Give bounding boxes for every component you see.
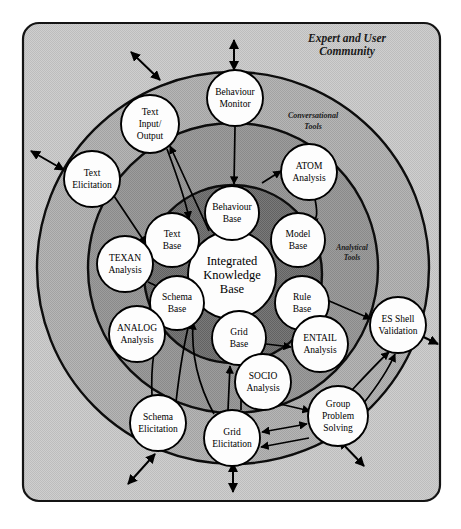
node-analog-analysis[interactable]: ANALOG Analysis [109, 306, 165, 362]
node-label-analog-analysis-l2: Analysis [120, 335, 154, 345]
node-label-model-base-l2: Base [289, 241, 307, 251]
node-socio-analysis[interactable]: SOCIO Analysis [235, 354, 291, 410]
node-label-atom-analysis-l2: Analysis [292, 173, 326, 183]
node-label-entail-analysis-l2: Analysis [303, 345, 337, 355]
node-circle-grid-elicitation[interactable] [204, 410, 260, 466]
node-label-text-input-output-l1: Text [142, 107, 159, 117]
node-label-socio-analysis-l1: SOCIO [249, 371, 278, 381]
node-es-shell-validation[interactable]: ES Shell Validation [370, 297, 426, 353]
node-label-rule-base-l2: Base [293, 304, 311, 314]
node-circle-text-elicitation[interactable] [64, 151, 120, 207]
node-grid-elicitation[interactable]: Grid Elicitation [204, 410, 260, 466]
node-text-input-output[interactable]: Text Input/ Output [121, 95, 179, 153]
node-label-model-base-l1: Model [286, 229, 311, 239]
zone-label-community-line2: Community [319, 45, 375, 58]
node-model-base[interactable]: Model Base [271, 213, 325, 267]
node-circle-schema-elicitation[interactable] [130, 395, 186, 451]
node-label-schema-elicitation-l1: Schema [143, 412, 174, 422]
node-label-behaviour-monitor-l2: Monitor [219, 99, 251, 109]
node-atom-analysis[interactable]: ATOM Analysis [281, 144, 337, 200]
node-label-grid-base-l1: Grid [230, 327, 248, 337]
node-label-texan-analysis-l1: TEXAN [109, 253, 141, 263]
node-label-text-base-l1: Text [164, 229, 181, 239]
node-circle-socio-analysis[interactable] [235, 354, 291, 410]
node-circle-model-base[interactable] [271, 213, 325, 267]
node-text-elicitation[interactable]: Text Elicitation [64, 151, 120, 207]
zone-label-conversational-line1: Conversational [288, 111, 339, 120]
node-label-entail-analysis-l1: ENTAIL [303, 333, 337, 343]
node-label-grid-elicitation-l2: Elicitation [212, 439, 252, 449]
node-label-group-problem-solving-l3: Solving [323, 423, 353, 433]
node-entail-analysis[interactable]: ENTAIL Analysis [292, 316, 348, 372]
node-group-problem-solving[interactable]: Group Problem Solving [308, 386, 368, 446]
node-behaviour-monitor[interactable]: Behaviour Monitor [207, 70, 263, 126]
node-behaviour-base[interactable]: Behaviour Base [205, 186, 259, 240]
node-label-text-input-output-l3: Output [137, 131, 164, 141]
node-circle-es-shell-validation[interactable] [370, 297, 426, 353]
node-label-text-input-output-l2: Input/ [139, 119, 162, 129]
node-circle-behaviour-monitor[interactable] [207, 70, 263, 126]
zone-label-conversational-line2: Tools [304, 122, 322, 131]
knowledge-engineering-diagram: Expert and User Community Conversational… [0, 0, 461, 529]
zone-label-analytical-line1: Analytical [335, 243, 369, 252]
node-texan-analysis[interactable]: TEXAN Analysis [97, 236, 153, 292]
node-schema-elicitation[interactable]: Schema Elicitation [130, 395, 186, 451]
node-label-group-problem-solving-l2: Problem [322, 411, 355, 421]
node-label-behaviour-monitor-l1: Behaviour [215, 87, 255, 97]
diagram-canvas: Expert and User Community Conversational… [0, 0, 461, 529]
node-label-text-base-l2: Base [163, 241, 181, 251]
node-label-schema-base-l1: Schema [162, 292, 193, 302]
zone-label-expert-and-user-community: Expert and User Community [307, 32, 386, 58]
node-label-behaviour-base-l2: Base [223, 214, 241, 224]
node-circle-analog-analysis[interactable] [109, 306, 165, 362]
node-label-integrated-knowledge-base-l3: Base [220, 282, 245, 296]
node-label-text-elicitation-l2: Elicitation [72, 180, 112, 190]
zone-label-community-line1: Expert and User [307, 32, 386, 45]
node-label-integrated-knowledge-base-l2: Knowledge [203, 268, 261, 282]
node-label-grid-elicitation-l1: Grid [223, 427, 241, 437]
node-circle-atom-analysis[interactable] [281, 144, 337, 200]
node-label-es-shell-validation-l2: Validation [378, 326, 417, 336]
edge-behaviour-monitor-to-behaviour-base [234, 127, 235, 184]
node-label-schema-elicitation-l2: Elicitation [138, 424, 178, 434]
node-label-group-problem-solving-l1: Group [326, 399, 351, 409]
node-label-grid-base-l2: Base [230, 339, 248, 349]
node-label-atom-analysis-l1: ATOM [296, 161, 323, 171]
node-label-es-shell-validation-l1: ES Shell [382, 314, 415, 324]
node-circle-entail-analysis[interactable] [292, 316, 348, 372]
node-label-text-elicitation-l1: Text [84, 168, 101, 178]
node-label-integrated-knowledge-base-l1: Integrated [207, 254, 258, 268]
node-label-socio-analysis-l2: Analysis [246, 383, 280, 393]
node-label-rule-base-l1: Rule [293, 292, 311, 302]
zone-label-analytical-line2: Tools [344, 253, 360, 262]
node-circle-behaviour-base[interactable] [205, 186, 259, 240]
node-label-behaviour-base-l1: Behaviour [212, 202, 252, 212]
node-label-texan-analysis-l2: Analysis [108, 265, 142, 275]
node-circle-texan-analysis[interactable] [97, 236, 153, 292]
node-label-schema-base-l2: Base [168, 304, 186, 314]
node-label-analog-analysis-l1: ANALOG [117, 323, 157, 333]
